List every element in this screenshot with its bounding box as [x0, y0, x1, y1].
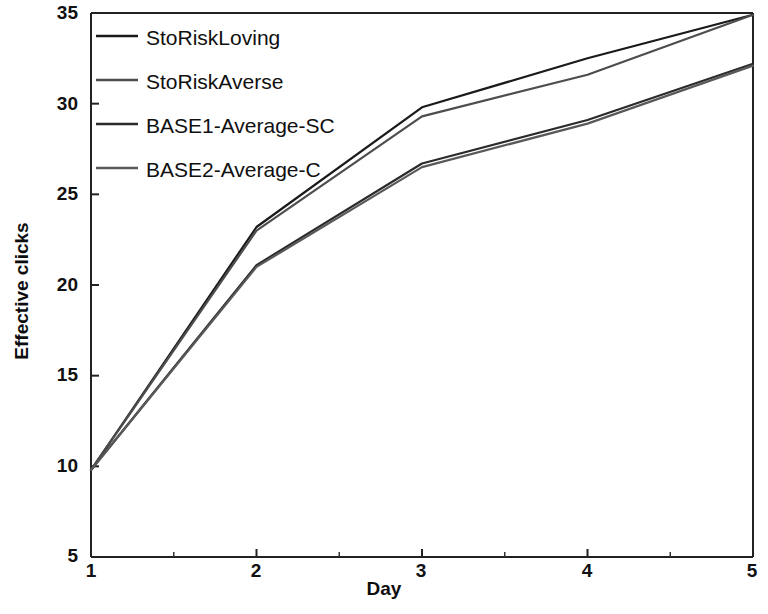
- series-line: [91, 15, 753, 470]
- series-line: [91, 66, 753, 470]
- series-line: [91, 64, 753, 470]
- axis-spines: [91, 13, 753, 557]
- data-series: [91, 15, 753, 470]
- plot-area: [0, 0, 768, 614]
- chart-figure: Effective clicks Day 35 30 25 20 15 10 5…: [0, 0, 768, 614]
- legend-swatches: [96, 36, 138, 168]
- axis-ticks: [91, 13, 753, 557]
- series-line: [91, 15, 753, 470]
